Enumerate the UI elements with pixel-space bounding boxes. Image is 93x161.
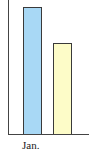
- x-tick-label-jan: Jan.: [22, 139, 39, 151]
- bar-series-1-jan: [23, 7, 42, 134]
- y-axis: [8, 0, 9, 135]
- x-axis: [8, 134, 89, 135]
- bar-series-2-jan: [53, 43, 72, 134]
